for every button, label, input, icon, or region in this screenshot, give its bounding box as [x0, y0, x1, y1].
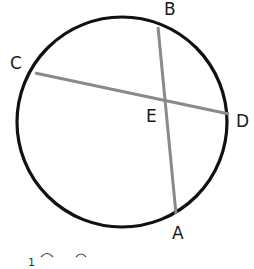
label-d: D — [236, 113, 249, 130]
circle — [17, 17, 227, 227]
arc-symbol-2 — [76, 254, 86, 257]
chord-ba — [158, 27, 176, 214]
footer-partial-text: 1 — [28, 256, 41, 269]
arc-symbol-1 — [41, 254, 53, 258]
label-a: A — [172, 225, 184, 242]
label-c: C — [10, 55, 22, 72]
label-e: E — [146, 108, 157, 125]
label-b: B — [164, 1, 176, 18]
chord-cd — [35, 73, 229, 114]
